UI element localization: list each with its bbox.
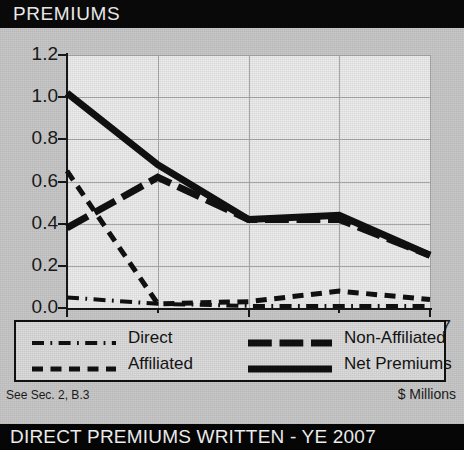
units-label: $ Millions xyxy=(398,386,456,402)
legend-label-net-premiums: Net Premiums xyxy=(344,354,452,374)
bottom-title: DIRECT PREMIUMS WRITTEN - YE 2007 xyxy=(10,426,376,448)
chart-area: 0.00.20.40.60.81.01.2 200320052007 xyxy=(0,28,464,313)
series-lines xyxy=(0,28,464,313)
legend-label-direct: Direct xyxy=(128,328,172,348)
legend-swatch-direct xyxy=(32,337,116,343)
legend-swatch-net-premiums xyxy=(248,363,332,369)
series-line-direct xyxy=(67,297,430,305)
legend-swatch-non-affiliated xyxy=(248,337,332,343)
premiums-chart-panel: PREMIUMS 0.00.20.40.60.81.01.2 200320052… xyxy=(0,0,464,450)
bottom-title-bar: DIRECT PREMIUMS WRITTEN - YE 2007 xyxy=(0,424,464,450)
legend-label-affiliated: Affiliated xyxy=(128,354,193,374)
series-line-net-premiums xyxy=(67,93,430,255)
legend-label-non-affiliated: Non-Affiliated xyxy=(344,328,446,348)
chart-legend: Direct Non-Affiliated Affiliated Net Pre… xyxy=(14,320,446,382)
panel-title-bar: PREMIUMS xyxy=(0,0,464,28)
legend-swatch-affiliated xyxy=(32,363,116,369)
source-note: See Sec. 2, B.3 xyxy=(6,388,89,402)
panel-title: PREMIUMS xyxy=(13,3,120,25)
